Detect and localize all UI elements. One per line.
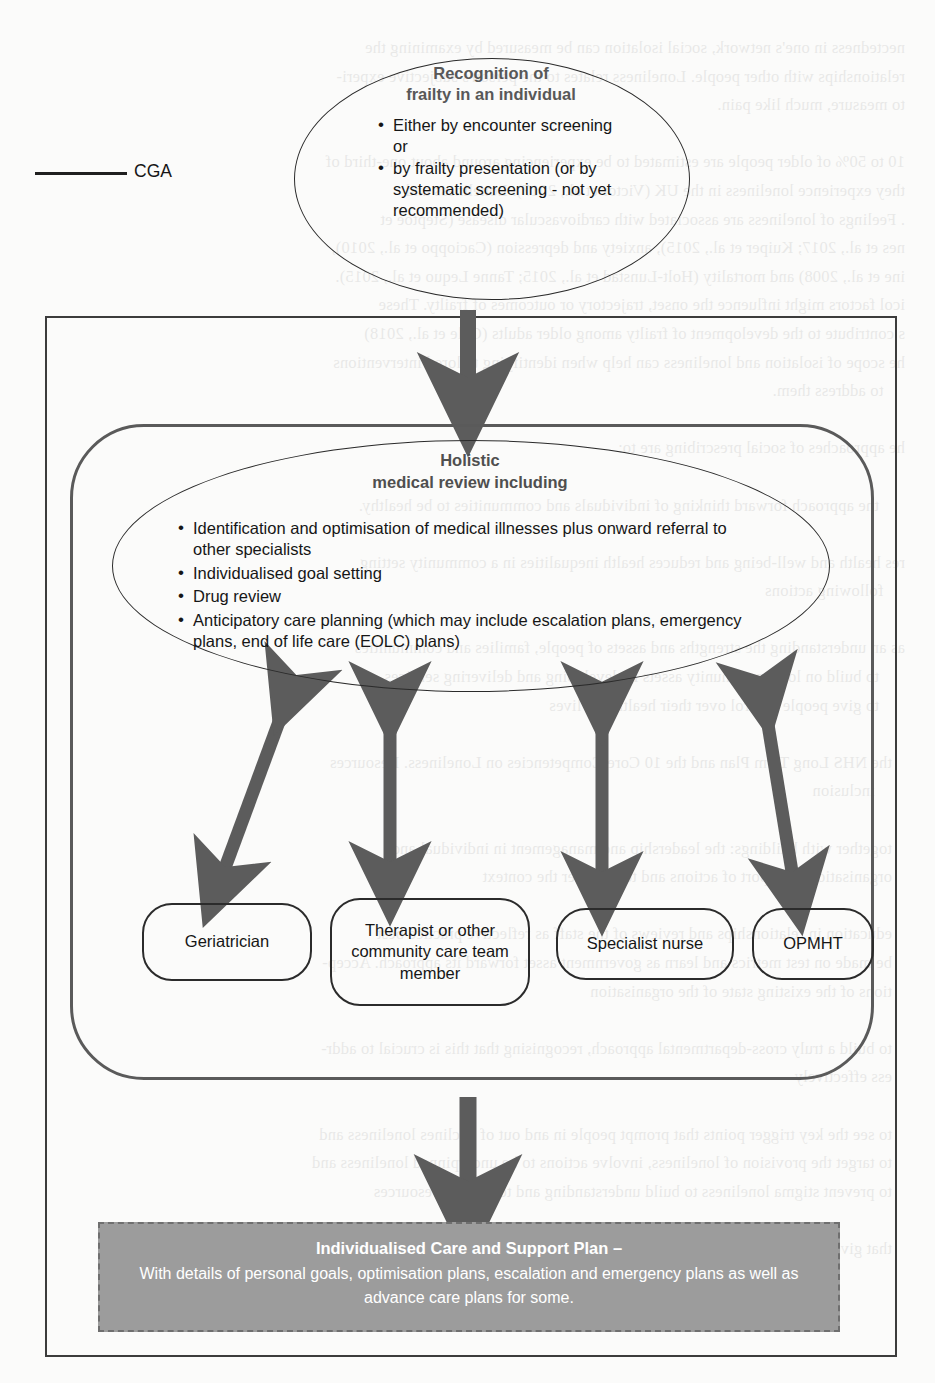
- role-label-opmht: OPMHT: [783, 933, 843, 954]
- role-label-geriatrician: Geriatrician: [185, 931, 269, 952]
- plan-box-subtitle: With details of personal goals, optimisa…: [100, 1260, 838, 1310]
- holistic-bullet-2: Individualised goal setting: [178, 563, 768, 584]
- holistic-bullet-3: Drug review: [178, 586, 768, 607]
- cga-legend-line: [35, 172, 127, 175]
- role-box-therapist: Therapist or other community care team m…: [330, 898, 530, 1006]
- recognition-of-frailty-title: Recognition of frailty in an individual: [294, 63, 688, 105]
- role-label-therapist: Therapist or other community care team m…: [340, 920, 520, 984]
- role-box-geriatrician: Geriatrician: [142, 903, 312, 981]
- recognition-title-line1: Recognition of: [294, 63, 688, 84]
- holistic-title-line1: Holistic: [112, 450, 828, 472]
- role-box-specialist-nurse: Specialist nurse: [556, 908, 734, 980]
- holistic-title-line2: medical review including: [112, 472, 828, 494]
- role-box-opmht: OPMHT: [752, 908, 874, 980]
- recognition-of-frailty-bullets: Either by encounter screening or by frai…: [378, 115, 628, 222]
- individualised-care-and-support-plan-box: Individualised Care and Support Plan – W…: [98, 1222, 840, 1332]
- holistic-bullet-1: Identification and optimisation of medic…: [178, 518, 768, 561]
- holistic-bullet-4: Anticipatory care planning (which may in…: [178, 610, 768, 653]
- recognition-title-line2: frailty in an individual: [294, 84, 688, 105]
- role-label-specialist-nurse: Specialist nurse: [587, 933, 703, 954]
- recognition-bullet-1: Either by encounter screening or: [378, 115, 628, 157]
- plan-box-title: Individualised Care and Support Plan –: [100, 1237, 838, 1260]
- cga-legend-label: CGA: [134, 160, 224, 182]
- holistic-medical-review-title: Holistic medical review including: [112, 450, 828, 494]
- holistic-medical-review-bullets: Identification and optimisation of medic…: [178, 518, 768, 655]
- recognition-bullet-2: by frailty presentation (or by systemati…: [378, 158, 628, 221]
